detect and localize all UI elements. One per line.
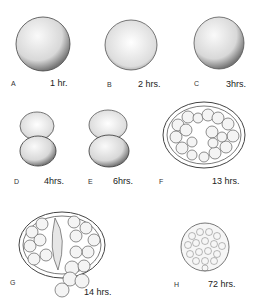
figure-time-g: 14 hrs. bbox=[84, 287, 112, 297]
figure-time-b: 2 hrs. bbox=[138, 79, 161, 89]
figure-label-a: A bbox=[11, 80, 16, 87]
embryo-e-two-cell bbox=[89, 110, 129, 167]
embryo-d-two-cell bbox=[20, 112, 56, 166]
figure-time-d: 4hrs. bbox=[44, 176, 64, 186]
embryo-h-blastula bbox=[181, 223, 229, 271]
embryo-b-single-cell bbox=[105, 20, 157, 70]
figure-label-h: H bbox=[174, 281, 179, 288]
figure-time-e: 6hrs. bbox=[113, 176, 133, 186]
figure-time-a: 1 hr. bbox=[50, 78, 68, 88]
figure-time-c: 3hrs. bbox=[226, 79, 246, 89]
embryo-a-single-cell bbox=[16, 17, 70, 71]
figure-time-h: 72 hrs. bbox=[208, 279, 236, 289]
embryo-g-hatching bbox=[19, 212, 105, 297]
figure-label-c: C bbox=[194, 80, 199, 87]
figure-label-g: G bbox=[10, 279, 15, 286]
embryo-illustration bbox=[0, 0, 254, 298]
figure-label-e: E bbox=[88, 178, 93, 185]
figure-label-d: D bbox=[14, 178, 19, 185]
embryo-f-morula-in-membrane bbox=[163, 102, 245, 168]
figure-label-f: F bbox=[159, 178, 163, 185]
figure-time-f: 13 hrs. bbox=[212, 176, 240, 186]
embryo-c-single-cell bbox=[194, 17, 244, 69]
figure-label-b: B bbox=[107, 81, 112, 88]
